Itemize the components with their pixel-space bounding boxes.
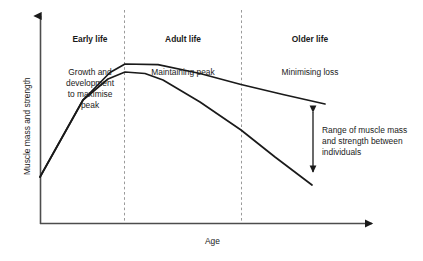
range-annotation-text: Range of muscle mass and strength betwee…: [322, 125, 422, 157]
phase-subtitle-older-life: Minimising loss: [255, 67, 365, 78]
phase-subtitle-adult-life: Maintaining peak: [128, 67, 238, 78]
phase-label-adult-life: Adult life Maintaining peak: [128, 12, 238, 100]
life-course-muscle-chart: Early life Growth and development to max…: [0, 0, 423, 261]
x-axis-title: Age: [205, 236, 220, 247]
phase-label-older-life: Older life Minimising loss: [255, 12, 365, 100]
y-axis-title: Muscle mass and strength: [22, 77, 33, 175]
phase-label-early-life: Early life Growth and development to max…: [44, 12, 136, 133]
phase-title-adult-life: Adult life: [128, 34, 238, 45]
phase-title-older-life: Older life: [255, 34, 365, 45]
phase-title-early-life: Early life: [44, 34, 136, 45]
phase-subtitle-early-life: Growth and development to maximise peak: [44, 67, 136, 111]
